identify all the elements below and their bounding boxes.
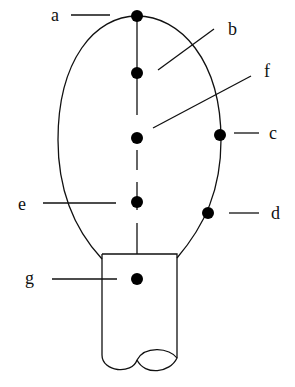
point-f [131, 132, 143, 144]
label-b: b [228, 19, 237, 39]
stalk-outline [102, 254, 177, 370]
label-c: c [269, 123, 277, 143]
point-g [131, 273, 143, 285]
label-g: g [25, 268, 34, 288]
label-f: f [264, 61, 270, 81]
label-e: e [18, 194, 26, 214]
leader-f [153, 76, 251, 128]
stalk-bottom-lens [137, 350, 177, 371]
diagram-canvas: a b f c e d g [0, 0, 295, 387]
point-e [131, 196, 143, 208]
point-d [202, 207, 214, 219]
point-a [131, 10, 143, 22]
point-c [214, 129, 226, 141]
label-a: a [51, 5, 59, 25]
point-b [131, 67, 143, 79]
label-d: d [271, 203, 280, 223]
